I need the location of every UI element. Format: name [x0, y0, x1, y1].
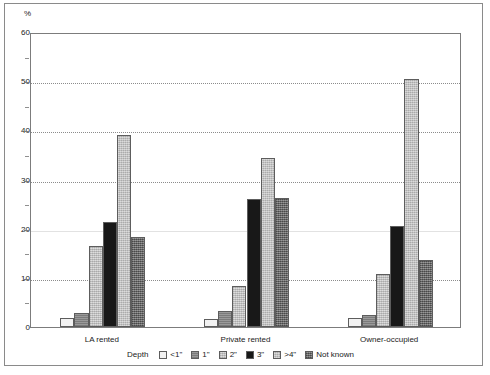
y-tick-minor-45	[25, 107, 29, 108]
bar	[348, 318, 362, 327]
bar	[117, 135, 131, 327]
y-tick-mark-40	[24, 131, 29, 132]
bar	[362, 315, 376, 327]
legend-item-label: >4"	[284, 351, 296, 359]
bar	[419, 260, 433, 327]
legend-swatch-icon	[159, 351, 167, 359]
gridline-40	[31, 132, 460, 133]
y-tick-mark-20	[24, 230, 29, 231]
y-tick-minor-35	[25, 156, 29, 157]
legend-item-label: Not known	[316, 351, 354, 359]
bar	[275, 198, 289, 327]
gridline-30	[31, 182, 460, 183]
legend-swatch-icon	[246, 351, 254, 359]
y-tick-minor-55	[25, 58, 29, 59]
y-tick-mark-30	[24, 181, 29, 182]
bar	[247, 199, 261, 327]
chart-legend: Depth <1"1"2"3">4"Not known	[0, 351, 490, 359]
legend-swatch-icon	[305, 351, 313, 359]
legend-item[interactable]: <1"	[159, 351, 182, 359]
legend-item[interactable]: 2"	[219, 351, 237, 359]
bar	[261, 158, 275, 327]
y-axis: 0102030405060	[0, 0, 30, 375]
x-axis-label-owner-occupied: Owner-occupied	[360, 336, 418, 344]
chart-figure: % 0102030405060 LA rentedPrivate rentedO…	[0, 0, 490, 375]
bar	[103, 222, 117, 327]
legend-item-label: 3"	[257, 351, 264, 359]
legend-item[interactable]: Not known	[305, 351, 354, 359]
bar	[60, 318, 74, 327]
legend-item[interactable]: 3"	[246, 351, 264, 359]
bar	[89, 246, 103, 327]
bar	[376, 274, 390, 327]
bar	[404, 79, 418, 327]
plot-area	[30, 33, 461, 328]
bar	[74, 313, 88, 327]
gridline-50	[31, 83, 460, 84]
legend-title: Depth	[127, 351, 148, 359]
x-axis-label-la-rented: LA rented	[85, 336, 119, 344]
legend-item-label: 2"	[230, 351, 237, 359]
legend-swatch-icon	[191, 351, 199, 359]
y-tick-minor-5	[25, 303, 29, 304]
y-tick-minor-25	[25, 205, 29, 206]
y-tick-label-60: 60	[10, 29, 30, 37]
legend-items: <1"1"2"3">4"Not known	[159, 351, 363, 359]
bar	[390, 226, 404, 327]
bar	[131, 237, 145, 327]
x-axis-label-private-rented: Private rented	[221, 336, 271, 344]
legend-item[interactable]: 1"	[191, 351, 209, 359]
bar	[204, 319, 218, 327]
bar	[218, 311, 232, 327]
legend-item-label: 1"	[202, 351, 209, 359]
legend-swatch-icon	[273, 351, 281, 359]
legend-item-label: <1"	[170, 351, 182, 359]
legend-swatch-icon	[219, 351, 227, 359]
legend-item[interactable]: >4"	[273, 351, 296, 359]
y-tick-mark-10	[24, 279, 29, 280]
bar	[232, 286, 246, 327]
y-tick-mark-50	[24, 82, 29, 83]
y-tick-label-0: 0	[10, 324, 30, 332]
y-tick-minor-15	[25, 254, 29, 255]
